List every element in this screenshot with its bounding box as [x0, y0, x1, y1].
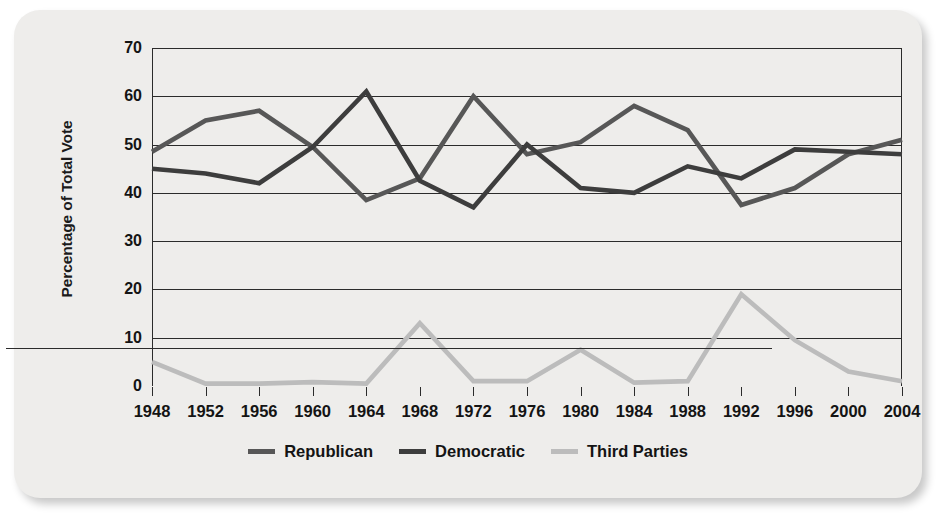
- x-tick-label-2004: 2004: [871, 402, 933, 421]
- y-axis-title: Percentage of Total Vote: [58, 94, 76, 324]
- y-tick-label-40: 40: [102, 184, 142, 202]
- y-tick-label-10: 10: [102, 329, 142, 347]
- legend-label: Democratic: [435, 442, 525, 461]
- legend-label: Republican: [284, 442, 373, 461]
- legend-swatch-icon: [551, 449, 578, 454]
- chart-card: Percentage of Total Vote 706050403020100…: [14, 10, 922, 498]
- y-tick-label-20: 20: [102, 280, 142, 298]
- legend-item-democratic[interactable]: Democratic: [399, 442, 525, 461]
- legend-item-third-parties[interactable]: Third Parties: [551, 442, 688, 461]
- legend-label: Third Parties: [587, 442, 688, 461]
- x-tick-1952: [206, 387, 207, 396]
- x-tick-1960: [313, 387, 314, 396]
- y-tick-label-60: 60: [102, 87, 142, 105]
- plot-area: [152, 48, 902, 386]
- y-axis-tick-labels: 706050403020100: [92, 48, 142, 386]
- legend-item-republican[interactable]: Republican: [248, 442, 373, 461]
- x-tick-1976: [527, 387, 528, 396]
- y-tick-label-0: 0: [102, 377, 142, 395]
- x-tick-1988: [688, 387, 689, 396]
- x-axis-ticks: [152, 387, 902, 397]
- x-axis-line: [6, 348, 772, 349]
- x-tick-1996: [795, 387, 796, 396]
- series-line-third-parties: [152, 294, 902, 383]
- x-tick-1984: [634, 387, 635, 396]
- x-axis-tick-labels: 1948195219561960196419681972197619801984…: [152, 402, 902, 428]
- x-tick-1980: [581, 387, 582, 396]
- x-tick-1956: [259, 387, 260, 396]
- x-tick-1972: [473, 387, 474, 396]
- x-tick-1968: [420, 387, 421, 396]
- x-tick-1992: [741, 387, 742, 396]
- x-tick-2000: [848, 387, 849, 396]
- x-tick-1948: [152, 387, 153, 396]
- series-lines: [152, 48, 902, 386]
- y-tick-label-70: 70: [102, 39, 142, 57]
- chart-legend: RepublicanDemocraticThird Parties: [14, 442, 922, 461]
- x-tick-2004: [902, 387, 903, 396]
- y-tick-label-30: 30: [102, 232, 142, 250]
- legend-swatch-icon: [399, 449, 426, 454]
- x-tick-1964: [366, 387, 367, 396]
- y-tick-label-50: 50: [102, 136, 142, 154]
- legend-swatch-icon: [248, 449, 275, 454]
